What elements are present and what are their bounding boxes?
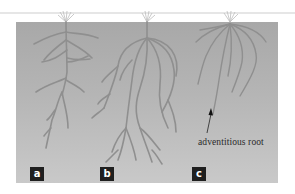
panel-label-c: c <box>192 167 206 181</box>
panel-label-a: a <box>30 167 44 181</box>
arrow-icon <box>0 0 295 194</box>
panel-label-b: b <box>100 167 114 181</box>
adventitious-root-annotation: adventitious root <box>198 137 264 147</box>
